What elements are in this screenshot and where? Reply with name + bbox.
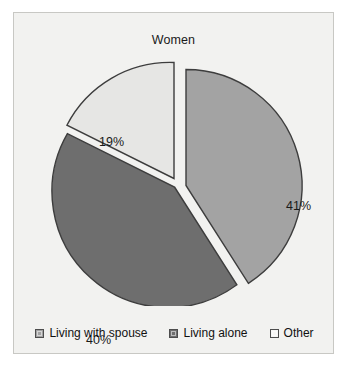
legend-label-living-with-spouse: Living with spouse: [49, 327, 147, 339]
legend-swatch-icon-living-alone: [169, 329, 178, 338]
chart-frame: Women 41% 40% 19% Living with spouse Liv…: [13, 12, 334, 354]
legend-label-other: Other: [284, 327, 314, 339]
slice-label-other: 19%: [99, 135, 124, 149]
chart-legend: Living with spouse Living alone Other: [14, 327, 335, 339]
pie-chart: 41% 40% 19%: [14, 61, 335, 306]
legend-item-living-alone[interactable]: Living alone: [169, 327, 247, 339]
legend-item-other[interactable]: Other: [270, 327, 314, 339]
legend-swatch-icon-living-with-spouse: [35, 329, 44, 338]
slice-label-living-with-spouse: 41%: [286, 199, 311, 213]
pie-svg: [14, 61, 335, 306]
legend-item-living-with-spouse[interactable]: Living with spouse: [35, 327, 147, 339]
legend-label-living-alone: Living alone: [183, 327, 247, 339]
chart-title: Women: [14, 33, 333, 47]
legend-swatch-icon-other: [270, 329, 279, 338]
